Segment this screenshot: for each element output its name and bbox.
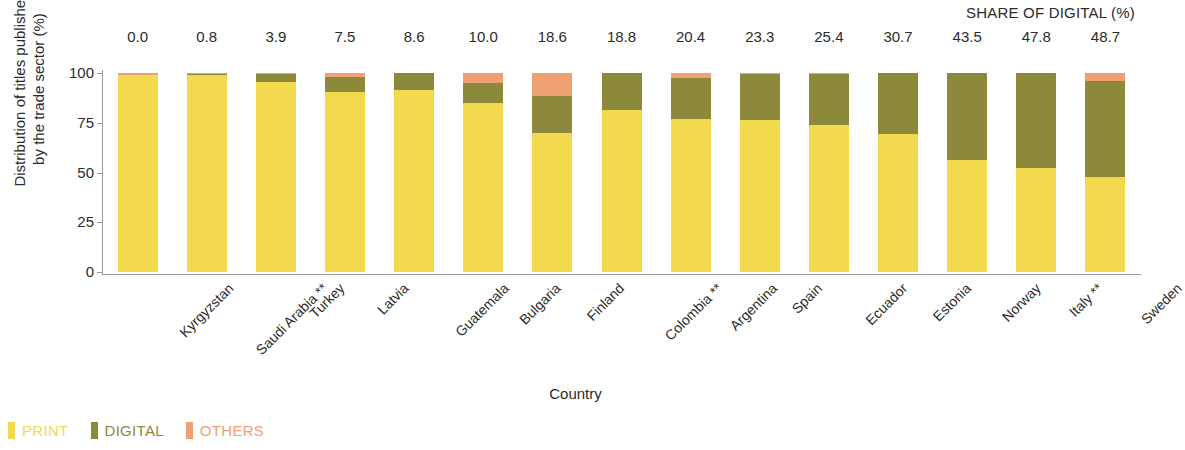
legend-item[interactable]: DIGITAL [91,422,164,439]
bar-segment-print[interactable] [256,82,296,272]
bar-segment-print[interactable] [1016,168,1056,272]
bar-group[interactable] [118,73,158,272]
chart-legend: PRINTDIGITALOTHERS [8,422,264,439]
bar-stack [1016,73,1056,272]
bar-segment-digital[interactable] [740,73,780,119]
bar-segment-digital[interactable] [256,74,296,82]
bar-segment-digital[interactable] [532,96,572,133]
x-tick-label: Ecuador [862,280,910,328]
bar-segment-others[interactable] [325,73,365,77]
x-tick-label: Finland [584,280,628,324]
y-tick-label: 100 [52,64,94,81]
x-tick-label: Argentina [726,280,780,334]
bar-group[interactable] [187,73,227,272]
bar-segment-digital[interactable] [602,73,642,110]
x-tick-label: Italy ** [1066,280,1106,320]
bar-stack [187,73,227,272]
bar-segment-print[interactable] [809,125,849,272]
y-tick-label: 50 [52,164,94,181]
bar-stack [532,73,572,272]
bar-segment-others[interactable] [1085,73,1125,81]
bar-segment-print[interactable] [602,110,642,272]
bar-segment-digital[interactable] [463,83,503,103]
bar-segment-print[interactable] [187,75,227,272]
bar-segment-print[interactable] [671,119,711,272]
bar-stack [325,73,365,272]
bar-segment-others[interactable] [187,73,227,74]
y-tick-label: 25 [52,213,94,230]
bar-group[interactable] [1016,73,1056,272]
bar-stack [256,73,296,272]
x-axis-title: Country [0,385,1151,402]
x-tick-label: Estonia [930,280,974,324]
x-tick-label: Spain [788,280,825,317]
bar-group[interactable] [463,73,503,272]
bar-stack [1085,73,1125,272]
bar-group[interactable] [256,73,296,272]
bar-segment-others[interactable] [671,73,711,78]
bar-segment-print[interactable] [1085,177,1125,272]
legend-swatch-icon [91,422,98,439]
bar-group[interactable] [394,73,434,272]
bar-segment-others[interactable] [809,73,849,74]
bar-group[interactable] [740,73,780,272]
bar-group[interactable] [947,73,987,272]
bar-segment-digital[interactable] [809,74,849,125]
bar-segment-print[interactable] [878,134,918,272]
bar-segment-digital[interactable] [947,73,987,160]
legend-label: PRINT [22,422,69,439]
bar-stack [394,73,434,272]
bar-segment-digital[interactable] [671,78,711,119]
x-tick-label: Kyrgyzstan [176,280,236,340]
x-tick-label: Colombia ** [661,280,725,344]
bar-segment-digital[interactable] [1016,73,1056,168]
bar-segment-print[interactable] [532,133,572,272]
bar-segment-digital[interactable] [878,73,918,134]
bar-segment-print[interactable] [947,160,987,272]
bar-segment-digital[interactable] [187,74,227,76]
y-tick-label: 75 [52,114,94,131]
legend-swatch-icon [8,422,15,439]
bar-segment-others[interactable] [463,73,503,83]
x-tick-label: Norway [999,280,1044,325]
bar-group[interactable] [809,73,849,272]
y-tick-label: 0 [52,263,94,280]
bar-stack [947,73,987,272]
bar-stack [118,73,158,272]
bar-stack [809,73,849,272]
bar-segment-digital[interactable] [325,77,365,92]
x-tick-label: Guatemala [452,280,512,340]
bar-stack [463,73,503,272]
bar-segment-others[interactable] [532,73,572,96]
bar-stack [878,73,918,272]
legend-item[interactable]: OTHERS [186,422,264,439]
bar-group[interactable] [602,73,642,272]
plot-area [103,73,1140,272]
bar-stack [671,73,711,272]
legend-swatch-icon [186,422,193,439]
bar-segment-others[interactable] [118,73,158,75]
x-tick-label: Bulgaria [516,280,564,328]
x-tick-label: Latvia [374,280,412,318]
legend-label: OTHERS [200,422,264,439]
x-axis-labels: KyrgyzstanSaudi Arabia **TurkeyLatviaGua… [103,276,1140,371]
bar-segment-print[interactable] [740,120,780,272]
bar-group[interactable] [532,73,572,272]
bar-group[interactable] [878,73,918,272]
bar-segment-print[interactable] [463,103,503,272]
bar-segment-print[interactable] [118,75,158,272]
bar-segment-print[interactable] [394,90,434,272]
bar-segment-digital[interactable] [394,73,434,90]
bar-segment-print[interactable] [325,92,365,272]
bar-group[interactable] [325,73,365,272]
bar-stack [602,73,642,272]
bar-segment-others[interactable] [256,73,296,74]
x-axis-line [102,274,1141,275]
bar-stack [740,73,780,272]
legend-label: DIGITAL [105,422,164,439]
legend-item[interactable]: PRINT [8,422,69,439]
bar-segment-digital[interactable] [1085,81,1125,178]
bar-group[interactable] [671,73,711,272]
bar-group[interactable] [1085,73,1125,272]
